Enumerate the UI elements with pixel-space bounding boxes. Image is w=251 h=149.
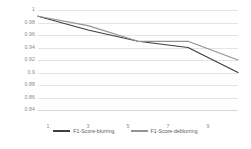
y-axis-tick-label: 0.92 — [5, 57, 35, 62]
y-axis-tick-label: 0.88 — [5, 82, 35, 87]
legend-item-deblurring[interactable]: F1-Score-deblurring — [131, 128, 198, 134]
y-axis-tick-label: 1 — [5, 7, 35, 12]
series-container — [38, 10, 238, 110]
legend-line-swatch-icon — [53, 130, 70, 132]
y-axis-tick-label: 0.86 — [5, 95, 35, 100]
series-line-f1-score-deblurring — [38, 16, 238, 60]
chart-legend: F1-Score-blurring F1-Score-deblurring — [0, 128, 251, 134]
legend-item-label: F1-Score-deblurring — [151, 128, 198, 134]
y-axis-tick-label: 0.9 — [5, 70, 35, 75]
legend-item-label: F1-Score-blurring — [73, 128, 114, 134]
plot-area: 1 3 5 7 9 — [38, 10, 238, 110]
y-axis-tick-label: 0.84 — [5, 107, 35, 112]
line-chart: 1 0.98 0.96 0.94 0.92 0.9 0.88 0.86 0.84 — [0, 0, 251, 149]
x-axis-line — [38, 110, 238, 111]
y-axis-tick-label: 0.96 — [5, 32, 35, 37]
y-axis-tick-label: 0.94 — [5, 45, 35, 50]
legend-item-blurring[interactable]: F1-Score-blurring — [53, 128, 114, 134]
legend-line-swatch-icon — [131, 130, 148, 132]
series-line-f1-score-blurring — [38, 16, 238, 72]
y-axis-tick-label: 0.98 — [5, 20, 35, 25]
